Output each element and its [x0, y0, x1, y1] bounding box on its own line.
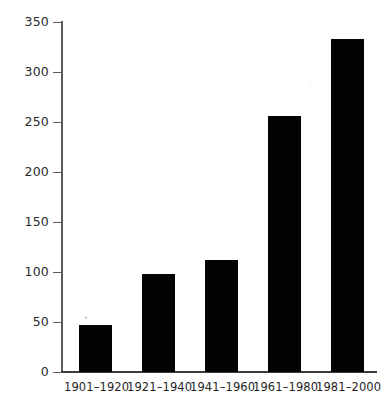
y-axis-tick-label: 200 [3, 166, 49, 179]
y-axis-tick-label: 0 [3, 366, 49, 379]
x-axis-tick-label: 1961–1980 [253, 382, 316, 394]
x-axis-tick-label: 1981–2000 [316, 382, 379, 394]
x-axis-tick-label: 1901–1920 [64, 382, 127, 394]
y-axis-tick-label: 100 [3, 266, 49, 279]
bar [142, 274, 175, 372]
y-axis-line [61, 21, 63, 373]
y-axis-tick [53, 22, 62, 23]
scan-speck [309, 82, 311, 84]
y-axis-tick [53, 272, 62, 273]
y-axis-tick [53, 172, 62, 173]
y-axis-tick [53, 122, 62, 123]
bar [331, 39, 364, 372]
scan-speck [85, 316, 87, 319]
chart-figure: 050100150200250300350 1901–19201921–1940… [0, 0, 388, 414]
y-axis-tick [53, 222, 62, 223]
y-axis-tick-label: 250 [3, 116, 49, 129]
y-axis-tick-label: 150 [3, 216, 49, 229]
y-axis-tick-label: 350 [3, 16, 49, 29]
bar [79, 325, 112, 372]
x-axis-tick-label: 1921–1940 [127, 382, 190, 394]
y-axis-tick [53, 372, 62, 373]
bar [205, 260, 238, 372]
y-axis-tick-label: 50 [3, 316, 49, 329]
y-axis-tick [53, 72, 62, 73]
y-axis-tick-label: 300 [3, 66, 49, 79]
bar [268, 116, 301, 372]
x-axis-tick-label: 1941–1960 [190, 382, 253, 394]
y-axis-tick [53, 322, 62, 323]
